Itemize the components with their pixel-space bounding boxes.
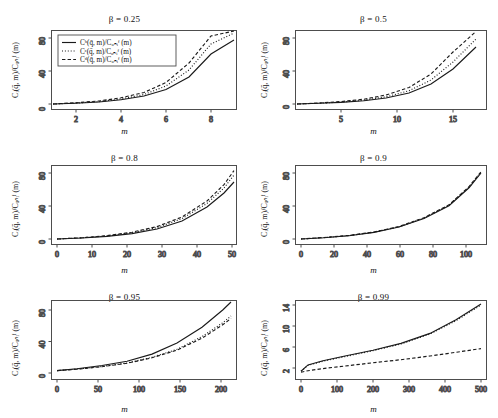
svg-text:200: 200: [367, 385, 379, 394]
svg-text:15: 15: [449, 115, 457, 124]
panel-beta-0-8: β = 0.8 Cᵢ(q̄, m)/Cᵤₙᵢᶠ (m) 0 10 20 30 4…: [0, 139, 249, 278]
panel-beta-0-5: β = 0.5 Cᵢ(q̄, m)/Cᵤₙᵢᶠ (m) 5 10 15 0 40…: [249, 0, 498, 139]
svg-text:80: 80: [282, 172, 291, 180]
svg-text:500: 500: [475, 385, 487, 394]
svg-text:40: 40: [363, 250, 371, 259]
svg-text:20: 20: [123, 250, 131, 259]
svg-text:30: 30: [158, 250, 166, 259]
svg-text:150: 150: [174, 385, 186, 394]
panel-beta-0-25: β = 0.25 Cᵢ(q̄, m)/Cᵤₙᵢᶠ (m) 2 4 6 8 0 4…: [0, 0, 249, 139]
svg-text:40: 40: [38, 70, 47, 78]
svg-text:40: 40: [193, 250, 201, 259]
x-axis-label: m: [249, 404, 498, 414]
legend-label-dashed: Cᵈ(q̄, m)/Cᵤₙᵢᶠ (m): [80, 56, 132, 64]
panel-beta-0-99: β = 0.99 Cᵢ(q̄, m)/Cᵤₙᵢᶠ (m) 0 100 200 3…: [249, 278, 498, 417]
svg-text:0: 0: [38, 374, 47, 378]
legend-label-dotted: Cᶜ(q̄, m)/Cᵤₙᵢᶠ (m): [80, 48, 132, 56]
svg-text:0: 0: [299, 250, 303, 259]
svg-text:100: 100: [331, 385, 343, 394]
svg-text:40: 40: [282, 205, 291, 213]
svg-text:80: 80: [282, 37, 291, 45]
svg-text:0: 0: [38, 107, 47, 111]
svg-text:40: 40: [38, 205, 47, 213]
svg-text:0: 0: [55, 385, 59, 394]
svg-text:0: 0: [282, 240, 291, 244]
svg-text:50: 50: [228, 250, 236, 259]
svg-text:0: 0: [55, 250, 59, 259]
svg-text:5: 5: [339, 115, 343, 124]
plot-area: 5 10 15 0 40 80: [249, 0, 498, 139]
plot-area: 0 20 40 60 80 100 0 40 80: [249, 139, 498, 278]
svg-text:14: 14: [282, 304, 291, 312]
x-axis-label: m: [0, 404, 249, 414]
svg-text:100: 100: [133, 385, 145, 394]
svg-text:10: 10: [282, 325, 291, 333]
svg-text:10: 10: [88, 250, 96, 259]
svg-text:2: 2: [74, 115, 78, 124]
panel-beta-0-9: β = 0.9 Cᵢ(q̄, m)/Cᵤₙᵢᶠ (m) 0 20 40 60 8…: [249, 139, 498, 278]
svg-text:8: 8: [209, 115, 213, 124]
svg-text:80: 80: [429, 250, 437, 259]
svg-text:4: 4: [119, 115, 123, 124]
svg-text:100: 100: [460, 250, 472, 259]
x-axis-label: m: [249, 126, 498, 136]
svg-text:6: 6: [164, 115, 168, 124]
figure-panel-grid: β = 0.25 Cᵢ(q̄, m)/Cᵤₙᵢᶠ (m) 2 4 6 8 0 4…: [0, 0, 498, 418]
x-axis-label: m: [249, 265, 498, 275]
svg-text:200: 200: [215, 385, 227, 394]
svg-text:80: 80: [38, 309, 47, 317]
svg-text:20: 20: [330, 250, 338, 259]
plot-area: 0 10 20 30 40 50 0 40 80: [0, 139, 249, 278]
svg-text:300: 300: [403, 385, 415, 394]
svg-text:0: 0: [282, 105, 291, 109]
legend-label-solid: Cᵇ(q̄, m)/Cᵤₙᵢᶠ (m): [80, 39, 132, 47]
svg-text:10: 10: [393, 115, 401, 124]
svg-text:0: 0: [38, 240, 47, 244]
plot-area: 2 4 6 8 0 40 80 Cᵇ(q̄, m)/Cᵤₙᵢᶠ (m) Cᶜ(q…: [0, 0, 249, 139]
svg-text:6: 6: [282, 348, 291, 352]
panel-beta-0-95: β = 0.95 Cᵢ(q̄, m)/Cᵤₙᵢᶠ (m) 0 50 100 15…: [0, 278, 249, 417]
svg-text:80: 80: [38, 172, 47, 180]
svg-text:80: 80: [38, 37, 47, 45]
x-axis-label: m: [0, 126, 249, 136]
svg-text:50: 50: [94, 385, 102, 394]
svg-text:40: 40: [282, 70, 291, 78]
plot-area: 0 50 100 150 200 0 40 80: [0, 278, 249, 417]
svg-text:0: 0: [299, 385, 303, 394]
x-axis-label: m: [0, 265, 249, 275]
svg-text:60: 60: [396, 250, 404, 259]
svg-text:400: 400: [439, 385, 451, 394]
plot-area: 0 100 200 300 400 500 2 6 10 14: [249, 278, 498, 417]
svg-text:2: 2: [282, 369, 291, 373]
legend: Cᵇ(q̄, m)/Cᵤₙᵢᶠ (m) Cᶜ(q̄, m)/Cᵤₙᵢᶠ (m) …: [58, 35, 176, 66]
svg-text:40: 40: [38, 341, 47, 349]
